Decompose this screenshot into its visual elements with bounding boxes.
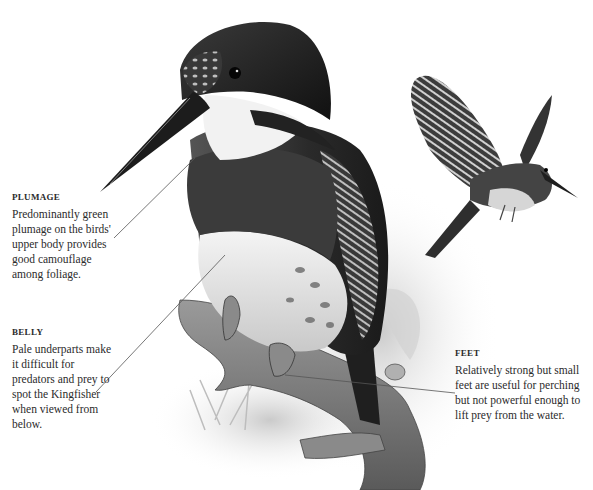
annotation-text: Pale underparts make it difficult for pr… (12, 343, 111, 430)
annotation-title: PLUMAGE (12, 190, 122, 205)
annotation-feet: FEET Relatively strong but small feet ar… (455, 346, 593, 423)
annotation-text: Relatively strong but small feet are use… (455, 364, 580, 421)
annotation-title: FEET (455, 346, 593, 361)
annotation-text: Predominantly green plumage on the birds… (12, 208, 111, 280)
annotation-belly: BELLY Pale underparts make it difficult … (12, 325, 112, 432)
annotation-title: BELLY (12, 325, 112, 340)
annotation-plumage: PLUMAGE Predominantly green plumage on t… (12, 190, 122, 282)
